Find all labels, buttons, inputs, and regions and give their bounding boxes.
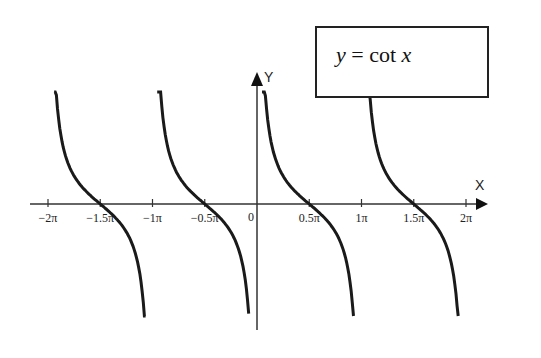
x-axis-arrow-icon (476, 198, 488, 210)
x-tick-label: 2π (460, 211, 472, 225)
formula-legend-box: y = cot x (315, 26, 489, 98)
x-tick-label: −1π (143, 211, 162, 225)
x-tick-label: 0.5π (299, 211, 320, 225)
y-axis-arrow-icon (251, 72, 263, 86)
origin-label: 0 (248, 210, 254, 224)
formula-title: y = cot x (336, 42, 411, 68)
x-tick-label: 1π (355, 211, 367, 225)
x-tick-label: 1.5π (403, 211, 424, 225)
x-tick-label: −2π (39, 211, 58, 225)
x-ticks: −2π−1.5π−1π−0.5π0.5π1π1.5π2π (39, 199, 472, 225)
cotangent-chart: X Y 0 −2π−1.5π−1π−0.5π0.5π1π1.5π2π y = c… (0, 0, 541, 358)
cot-branch-curve (157, 92, 249, 314)
x-axis-label: X (475, 177, 485, 193)
y-axis-label: Y (264, 69, 274, 85)
